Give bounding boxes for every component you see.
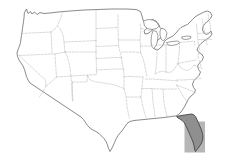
border-ct-ri — [207, 40, 208, 46]
lake-ontario-shape — [182, 36, 192, 40]
contiguous-us-outline — [17, 9, 212, 152]
lake-huron-shape — [160, 28, 167, 41]
us-map-svg — [0, 0, 232, 164]
country-outline-group — [17, 9, 212, 152]
lake-michigan-shape — [151, 31, 158, 49]
us-map-figure — [0, 0, 232, 164]
